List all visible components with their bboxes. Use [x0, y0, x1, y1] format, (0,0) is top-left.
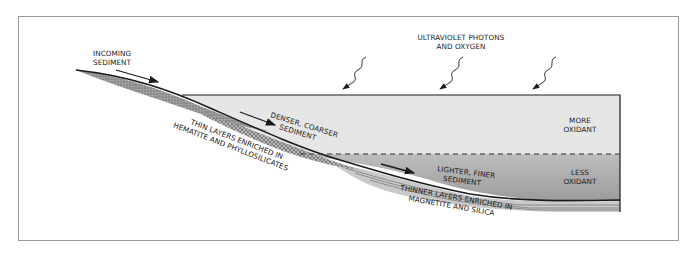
uv-photon-arrows — [343, 57, 556, 89]
incoming-label-2: SEDIMENT — [93, 58, 132, 67]
sedimentation-diagram: INCOMING SEDIMENT ULTRAVIOLET PHOTONS AN… — [0, 0, 697, 254]
more-oxidant-label-2: OXIDANT — [563, 125, 597, 134]
uv-label-1: ULTRAVIOLET PHOTONS — [417, 33, 504, 42]
uv-label-2: AND OXYGEN — [436, 42, 485, 51]
incoming-label-1: INCOMING — [93, 49, 131, 58]
less-oxidant-label-1: LESS — [571, 168, 589, 177]
less-oxidant-label-2: OXIDANT — [563, 177, 597, 186]
more-oxidant-label-1: MORE — [569, 116, 591, 125]
